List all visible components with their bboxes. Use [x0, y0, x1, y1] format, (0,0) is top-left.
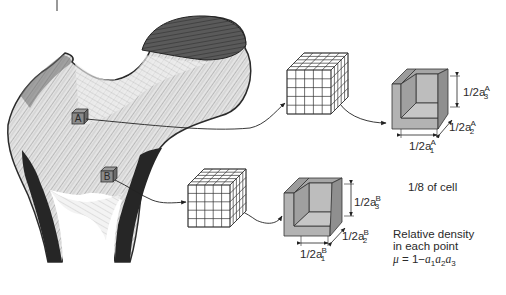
grid-cube-b: [188, 169, 246, 227]
marker-b: B: [101, 167, 117, 182]
cell-b: 1/2aB3 1/2aB2 1/2aB1: [284, 178, 381, 263]
density-formula: μ = 1−a1a2a3: [392, 253, 456, 268]
marker-a-label: A: [75, 113, 82, 124]
cell-a-right-side: [438, 69, 448, 129]
femur-cell-diagram: A B 1/2aA3 1/2aA2 1/2aA1: [0, 0, 506, 295]
cell-a-dim3-label: 1/2aA3: [463, 84, 490, 101]
fraction-note: 1/8 of cell: [408, 181, 457, 193]
cell-a: 1/2aA3 1/2aA2 1/2aA1: [392, 69, 490, 155]
cell-a-dim2-label: 1/2aA2: [449, 119, 476, 136]
cell-b-inner-back: [309, 183, 332, 212]
cell-b-dim3-label: 1/2aB3: [354, 194, 381, 211]
grid-cube-a: [287, 53, 348, 114]
cell-a-dim1-label: 1/2aA1: [409, 138, 436, 155]
cell-b-right-side: [330, 178, 342, 236]
cell-b-dim1-label: 1/2aB1: [300, 246, 327, 263]
cell-b-dim2-label: 1/2aB2: [342, 228, 369, 245]
cell-a-inner-back: [416, 74, 438, 103]
marker-b-label: B: [104, 171, 111, 182]
density-note-line1: Relative density: [393, 228, 474, 240]
marker-a: A: [72, 109, 88, 124]
density-note-line2: in each point: [393, 240, 459, 252]
